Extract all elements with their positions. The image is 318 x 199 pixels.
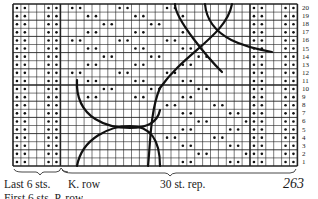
row-number: 9 (302, 93, 306, 101)
row-number: 13 (302, 61, 309, 69)
knitting-chart (0, 0, 318, 199)
brace-30-rep (62, 169, 296, 176)
row-number: 4 (302, 134, 306, 142)
row-number: 8 (302, 101, 306, 109)
page-number: 263 (283, 176, 304, 192)
row-number: 12 (302, 69, 309, 77)
label-k-row: K. row (68, 178, 100, 190)
row-number: 14 (302, 53, 309, 61)
lower-left-arc (77, 80, 130, 128)
label-last-6-sts: Last 6 sts. (4, 178, 50, 190)
brace-lines (14, 168, 296, 176)
row-number: 11 (302, 77, 309, 85)
row-number: 3 (302, 142, 306, 150)
row-number: 16 (302, 36, 309, 44)
row-number: 17 (302, 28, 309, 36)
brace-last-6 (14, 168, 61, 175)
label-30-st-rep: 30 st. rep. (160, 178, 205, 190)
label-first-6-sts: First 6 sts. P. row (4, 192, 83, 199)
row-number: 10 (302, 85, 309, 93)
row-number: 19 (302, 12, 309, 20)
row-number: 20 (302, 4, 309, 12)
row-number: 18 (302, 20, 309, 28)
row-number: 2 (302, 150, 306, 158)
row-number: 1 (302, 158, 306, 166)
row-number: 15 (302, 45, 309, 53)
row-number: 5 (302, 126, 306, 134)
row-number: 7 (302, 109, 306, 117)
row-number: 6 (302, 117, 306, 125)
